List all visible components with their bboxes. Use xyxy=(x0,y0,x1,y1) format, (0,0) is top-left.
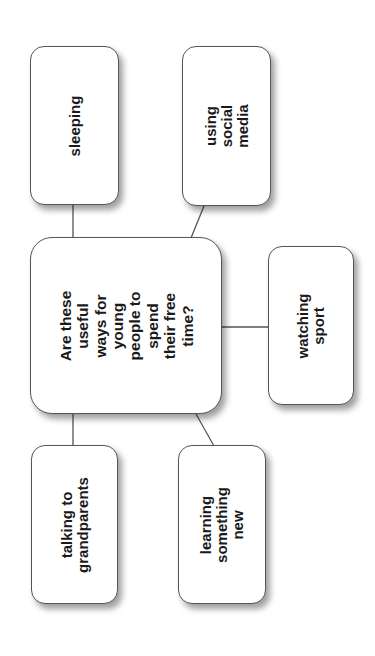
node-grandparents: talking to grandparents xyxy=(31,445,118,604)
connector-learning xyxy=(196,414,214,446)
node-label: sleeping xyxy=(67,95,83,156)
center-question-label: Are these useful ways for young people t… xyxy=(57,278,196,373)
node-watching-sport: watching sport xyxy=(268,246,354,405)
node-social-media: using social media xyxy=(182,46,271,206)
connector-social-media xyxy=(191,206,204,238)
node-sleeping: sleeping xyxy=(30,46,119,205)
node-learning: learning something new xyxy=(178,445,266,604)
center-question-box: Are these useful ways for young people t… xyxy=(30,237,222,414)
node-label: using social media xyxy=(203,104,250,148)
node-label: talking to grandparents xyxy=(59,477,91,573)
node-label: watching sport xyxy=(295,293,327,358)
node-label: learning something new xyxy=(198,487,245,563)
mind-map-diagram: sleeping using social media Are these us… xyxy=(0,0,375,656)
